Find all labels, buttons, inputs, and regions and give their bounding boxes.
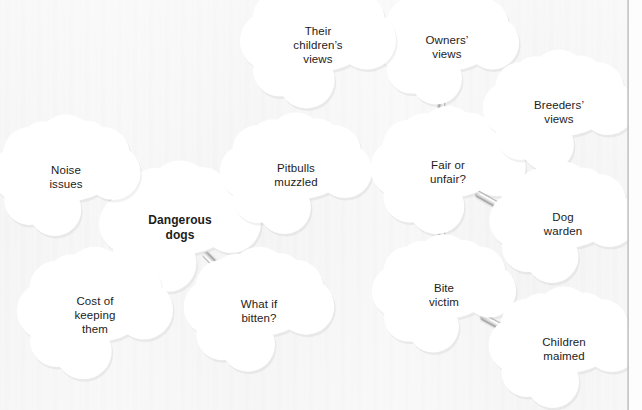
- node-children-maimed[interactable]: Children maimed: [507, 312, 621, 386]
- cloud-shape-noise-issues: [0, 130, 132, 224]
- cloud-shape-children-maimed: [497, 302, 631, 396]
- node-their-childrens-views[interactable]: Their children’s views: [260, 5, 376, 85]
- node-dog-warden[interactable]: Dog warden: [508, 187, 618, 261]
- cloud-shape-their-childrens-views: [250, 0, 386, 95]
- node-what-if-bitten[interactable]: What if bitten?: [203, 273, 315, 349]
- node-bite-victim[interactable]: Bite victim: [390, 259, 498, 331]
- cloud-shape-breeders-views: [491, 65, 627, 159]
- node-breeders-views[interactable]: Breeders’ views: [501, 75, 617, 149]
- node-pitbulls-muzzled[interactable]: Pitbulls muzzled: [238, 138, 354, 212]
- cloud-shape-what-if-bitten: [193, 263, 325, 359]
- cloud-shape-bite-victim: [380, 249, 508, 341]
- cloud-shape-dog-warden: [498, 177, 628, 271]
- node-noise-issues[interactable]: Noise issues: [10, 140, 122, 214]
- page-margin: [629, 0, 642, 410]
- node-fair-or-unfair[interactable]: Fair or unfair?: [390, 133, 506, 211]
- cloud-shape-pitbulls-muzzled: [228, 128, 364, 222]
- node-owners-views[interactable]: Owners’ views: [393, 11, 501, 83]
- node-cost-of-keeping-them[interactable]: Cost of keeping them: [37, 274, 153, 356]
- mind-map-canvas: Dangerous dogsNoise issuesPitbulls muzzl…: [0, 0, 642, 410]
- cloud-shape-cost-of-keeping-them: [27, 264, 163, 366]
- node-dangerous-dogs[interactable]: Dangerous dogs: [119, 188, 241, 268]
